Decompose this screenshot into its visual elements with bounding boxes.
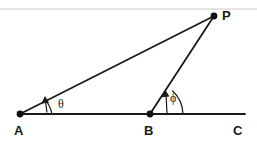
vertex-label-A: A: [14, 123, 24, 138]
diagram-canvas: A B C P θ ϕ: [0, 0, 257, 150]
vertex-label-C: C: [233, 123, 243, 138]
angle-label-theta: θ: [58, 97, 64, 111]
angle-label-phi: ϕ: [170, 91, 176, 105]
vertex-label-B: B: [144, 123, 153, 138]
vertex-dot-A: [17, 111, 24, 118]
diagram-background: [0, 0, 257, 150]
geometry-diagram: A B C P θ ϕ: [0, 0, 257, 150]
vertex-dot-P: [211, 13, 218, 20]
vertex-label-P: P: [222, 8, 231, 23]
vertex-dot-B: [147, 111, 154, 118]
